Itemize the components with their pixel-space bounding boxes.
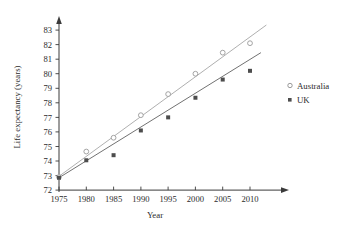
y-tick-label: 73 — [43, 171, 52, 181]
x-axis-title: Year — [147, 210, 163, 220]
filled-square-icon — [288, 98, 292, 102]
x-tick-label: 1985 — [105, 194, 122, 204]
data-point — [220, 50, 225, 55]
data-point — [138, 113, 143, 118]
data-point — [84, 158, 88, 162]
data-point — [112, 153, 116, 157]
legend-label: Australia — [297, 81, 329, 91]
y-tick-label: 79 — [43, 83, 52, 93]
y-tick-label: 80 — [43, 69, 52, 79]
data-point — [193, 96, 197, 100]
legend-label: UK — [297, 95, 310, 105]
data-point — [166, 115, 170, 119]
data-point — [139, 128, 143, 132]
data-point — [166, 92, 171, 97]
data-point — [57, 176, 61, 180]
x-tick-label: 2000 — [187, 194, 204, 204]
data-point — [221, 78, 225, 82]
data-point — [84, 149, 89, 154]
y-tick-label: 78 — [43, 98, 52, 108]
x-tick-label: 1975 — [50, 194, 67, 204]
data-point — [111, 135, 116, 140]
x-tick-label: 1995 — [160, 194, 177, 204]
data-point — [193, 71, 198, 76]
x-tick-label: 1980 — [78, 194, 95, 204]
y-tick-label: 81 — [43, 54, 52, 64]
x-tick-label: 2005 — [214, 194, 231, 204]
y-tick-label: 82 — [43, 40, 52, 50]
y-axis-title: Life expectancy (years) — [12, 65, 22, 148]
life-expectancy-chart: 83 82 81 80 79 78 77 76 75 74 73 72 — [0, 0, 345, 235]
y-tick-label: 76 — [43, 127, 52, 137]
y-tick-label: 75 — [43, 142, 52, 152]
y-tick-label: 74 — [43, 156, 52, 166]
y-tick-label: 83 — [43, 25, 52, 35]
chart-svg: 83 82 81 80 79 78 77 76 75 74 73 72 — [0, 0, 345, 235]
data-point — [248, 69, 252, 73]
y-tick-label: 77 — [43, 113, 52, 123]
data-point — [248, 41, 253, 46]
x-tick-label: 1990 — [132, 194, 149, 204]
x-tick-label: 2010 — [241, 194, 258, 204]
